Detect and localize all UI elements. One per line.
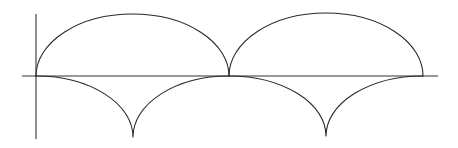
curve-diagram [0, 0, 458, 148]
upper-arch-1 [36, 14, 229, 76]
upper-arch-2 [229, 13, 423, 76]
upper-arches [36, 13, 423, 76]
lower-cusp-curves [36, 76, 423, 137]
lower-cusp-2 [229, 76, 423, 136]
lower-cusp-1 [36, 76, 229, 137]
